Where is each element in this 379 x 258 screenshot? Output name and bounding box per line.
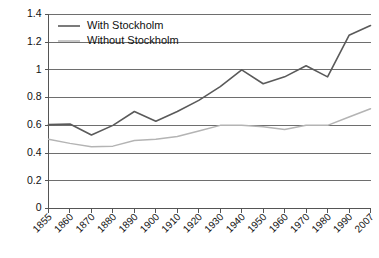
x-tick-label: 1855 <box>30 211 54 235</box>
legend-label-0: With Stockholm <box>87 19 163 31</box>
y-tick-label: 1.4 <box>27 7 42 19</box>
x-tick-label: 1920 <box>181 211 205 235</box>
x-tick-label: 2007 <box>352 211 376 235</box>
x-tick-label: 1970 <box>288 211 312 235</box>
y-tick-label: 0 <box>36 201 42 213</box>
x-tick-label: 1900 <box>138 211 162 235</box>
x-tick-label: 1980 <box>309 211 333 235</box>
x-tick-label: 1890 <box>116 211 140 235</box>
y-tick-label: 1.2 <box>27 35 42 47</box>
y-tick-label: 0.8 <box>27 90 42 102</box>
y-tick-label: 0.4 <box>27 146 42 158</box>
chart-canvas: 1.41.210.80.60.40.2018551860187018801890… <box>0 0 379 258</box>
series-line-without-stockholm <box>49 109 371 147</box>
x-tick-label: 1960 <box>267 211 291 235</box>
x-tick-label: 1870 <box>73 211 97 235</box>
x-tick-label: 1930 <box>202 211 226 235</box>
y-tick-label: 0.6 <box>27 118 42 130</box>
line-chart: 1.41.210.80.60.40.2018551860187018801890… <box>0 0 379 258</box>
x-tick-label: 1940 <box>224 211 248 235</box>
x-tick-label: 1860 <box>52 211 76 235</box>
legend-label-1: Without Stockholm <box>87 34 179 46</box>
x-tick-label: 1910 <box>159 211 183 235</box>
y-tick-label: 0.2 <box>27 174 42 186</box>
x-tick-label: 1950 <box>245 211 269 235</box>
x-tick-label: 1880 <box>95 211 119 235</box>
x-tick-label: 1990 <box>331 211 355 235</box>
y-tick-label: 1 <box>36 63 42 75</box>
